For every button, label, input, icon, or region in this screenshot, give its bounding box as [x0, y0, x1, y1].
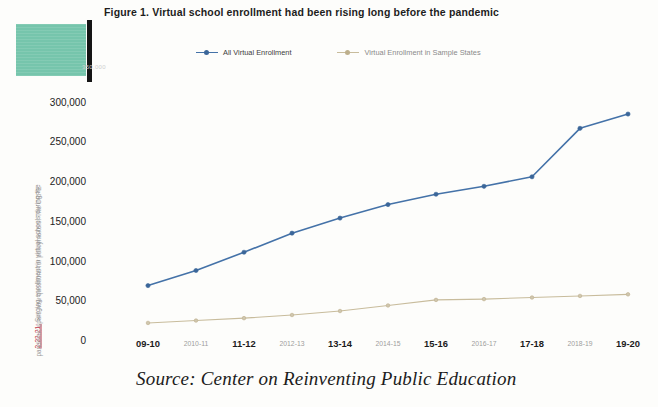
x-axis-tick-label: 13-14	[328, 338, 352, 349]
x-axis-tick-label: 15-16	[424, 338, 448, 349]
series-data-point	[290, 231, 294, 235]
legend-marker-icon-sample	[337, 49, 359, 57]
legend-label-all: All Virtual Enrollment	[223, 48, 291, 57]
x-axis-tick-label: 2014-15	[376, 340, 401, 347]
plot-area: 350,000 050,000100,000150,000200,000250,…	[82, 58, 642, 348]
y-axis-tick-label: 0	[2, 335, 86, 346]
series-data-point	[338, 309, 342, 313]
legend-marker-icon-all	[196, 49, 218, 57]
series-data-point	[482, 297, 486, 301]
x-axis-tick-label: 2010-11	[184, 340, 208, 347]
x-axis-tick-label: 19-20	[616, 338, 640, 349]
chart-svg	[82, 58, 642, 348]
y-axis-tick-label: 50,000	[2, 295, 86, 306]
series-data-point	[434, 298, 438, 302]
teal-highlight-block	[16, 24, 86, 76]
series-data-point	[338, 216, 342, 220]
series-data-point	[482, 184, 486, 188]
series-data-point	[626, 293, 630, 297]
figure-title: Figure 1. Virtual school enrollment had …	[104, 6, 499, 18]
x-axis-tick-label: 11-12	[232, 338, 255, 349]
series-data-point	[242, 316, 246, 320]
legend-label-sample: Virtual Enrollment in Sample States	[364, 48, 480, 57]
series-data-point	[194, 319, 198, 323]
y-axis-tick-label: 100,000	[2, 256, 86, 267]
series-data-point	[290, 313, 294, 317]
x-axis-tick-label: 09-10	[136, 338, 160, 349]
series-data-point	[578, 294, 582, 298]
y-axis-tick-label: 250,000	[2, 136, 86, 147]
series-data-point	[578, 126, 582, 130]
y-axis-tick-label: 300,000	[2, 97, 86, 108]
x-axis-tick-label: 17-18	[520, 338, 544, 349]
chart-legend: All Virtual Enrollment Virtual Enrollmen…	[196, 48, 596, 57]
source-caption: Source: Center on Reinventing Public Edu…	[136, 368, 516, 390]
y-axis-tick-label: 200,000	[2, 176, 86, 187]
series-data-point	[626, 112, 630, 116]
series-line	[148, 294, 628, 323]
legend-item-sample-states[interactable]: Virtual Enrollment in Sample States	[337, 48, 480, 57]
x-axis-tick-label: 2018-19	[568, 340, 593, 347]
series-data-point	[434, 192, 438, 196]
series-data-point	[530, 175, 534, 179]
y-axis-tick-label: 150,000	[2, 216, 86, 227]
series-data-point	[194, 268, 198, 272]
series-line	[148, 114, 628, 286]
series-data-point	[146, 284, 150, 288]
x-axis-tick-label: 2016-17	[472, 340, 497, 347]
series-data-point	[530, 296, 534, 300]
legend-item-all-virtual-enrollment[interactable]: All Virtual Enrollment	[196, 48, 291, 57]
series-data-point	[386, 304, 390, 308]
x-axis-tick-label: 2012-13	[280, 340, 305, 347]
series-data-point	[386, 202, 390, 206]
series-data-point	[146, 321, 150, 325]
series-data-point	[242, 250, 246, 254]
x-axis-tick-labels: 09-102010-1111-122012-1313-142014-1515-1…	[82, 336, 642, 358]
